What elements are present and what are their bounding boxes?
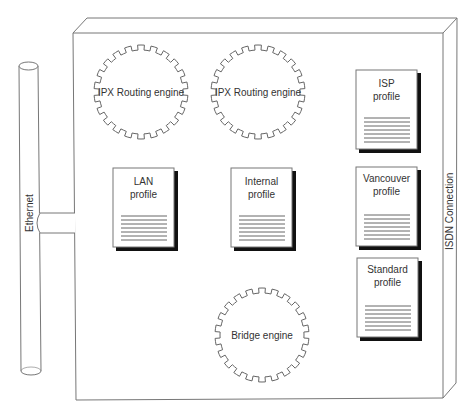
svg-text:Internal: Internal: [245, 176, 278, 187]
engine-label-ipx-2: IPX Routing engine: [215, 87, 302, 98]
svg-text:ISP: ISP: [378, 78, 394, 89]
svg-text:Vancouver: Vancouver: [363, 173, 411, 184]
profile-standard: Standard profile: [357, 258, 422, 341]
isdn-connection-label: ISDN Connection: [444, 173, 455, 250]
ethernet-connector: [37, 213, 75, 233]
engine-label-ipx-1: IPX Routing engine: [98, 87, 185, 98]
engine-label-bridge: Bridge engine: [231, 330, 293, 341]
svg-text:profile: profile: [374, 277, 402, 288]
svg-text:profile: profile: [130, 189, 158, 200]
ethernet-label: Ethernet: [24, 194, 35, 232]
svg-text:profile: profile: [248, 189, 276, 200]
profile-lan: LAN profile: [113, 168, 178, 251]
svg-text:profile: profile: [373, 91, 401, 102]
svg-text:Standard: Standard: [367, 264, 408, 275]
profile-isp: ISP profile: [356, 70, 421, 153]
svg-text:LAN: LAN: [134, 176, 153, 187]
profile-internal: Internal profile: [231, 168, 296, 251]
profile-vancouver: Vancouver profile: [356, 167, 421, 250]
svg-text:profile: profile: [373, 186, 401, 197]
diagram-canvas: ISDN Connection Ethernet IPX Routing eng…: [0, 0, 474, 417]
